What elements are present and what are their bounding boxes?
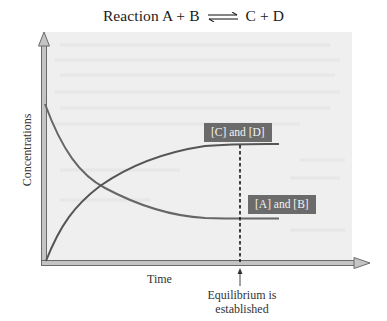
x-axis-label: Time <box>147 272 172 287</box>
equilibrium-pointer-arrow-icon <box>238 268 243 286</box>
y-axis-label: Concentrations <box>20 114 35 187</box>
equilibrium-annotation-line2: established <box>207 302 277 316</box>
products-label: [C] and [D] <box>204 123 272 142</box>
equilibrium-annotation-line1: Equilibrium is <box>207 288 277 302</box>
x-axis-arrowhead-icon <box>354 258 370 269</box>
reactants-label: [A] and [B] <box>248 195 316 214</box>
concentration-chart <box>0 0 387 321</box>
equilibrium-annotation: Equilibrium is established <box>207 288 277 316</box>
